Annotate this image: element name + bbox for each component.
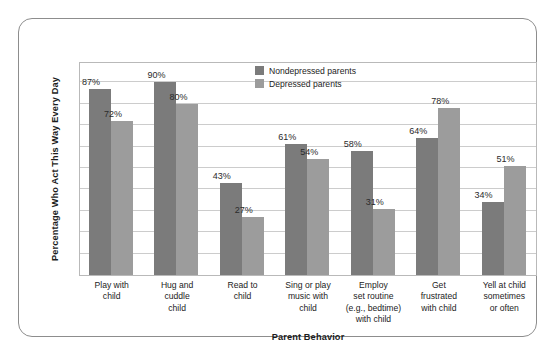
- x-tick-label: Hug andcuddlechild: [144, 280, 209, 314]
- bar: [220, 183, 242, 275]
- x-tick-label-line: Hug and: [144, 280, 209, 291]
- x-tick-label: Play withchild: [79, 280, 144, 303]
- bar-value-label: 31%: [355, 197, 395, 207]
- x-tick-label-line: Play with: [79, 280, 144, 291]
- x-tick-label-line: Yell at child: [472, 280, 537, 291]
- bar: [504, 166, 526, 275]
- legend-swatch-icon: [255, 79, 264, 88]
- legend-item: Nondepressed parents: [255, 65, 356, 76]
- bar-value-label: 87%: [71, 77, 111, 87]
- bar-value-label: 90%: [136, 70, 176, 80]
- x-tick-label-line: Employ: [341, 280, 406, 291]
- x-tick-label-line: music with: [275, 291, 340, 302]
- plot-area: 87%72%90%80%43%27%61%54%58%31%64%78%34%5…: [79, 62, 537, 276]
- bar: [373, 209, 395, 275]
- x-tick-label-line: child: [275, 303, 340, 314]
- legend-label: Nondepressed parents: [269, 66, 356, 76]
- bar-value-label: 80%: [158, 92, 198, 102]
- bar-value-label: 72%: [93, 109, 133, 119]
- bar-group: 87%72%: [80, 63, 145, 275]
- x-tick-label: Sing or playmusic withchild: [275, 280, 340, 314]
- bar: [307, 159, 329, 275]
- bar: [242, 217, 264, 275]
- bar: [111, 121, 133, 275]
- legend-label: Depressed parents: [269, 79, 342, 89]
- x-tick-label: Yell at childsometimesor often: [472, 280, 537, 314]
- x-tick-label: Getfrustratedwith child: [406, 280, 471, 314]
- bar-group: 61%54%: [276, 63, 341, 275]
- bar-value-label: 27%: [224, 205, 264, 215]
- bar-group: 90%80%: [145, 63, 210, 275]
- x-tick-label-line: Read to: [210, 280, 275, 291]
- x-tick-label: Employset routine(e.g., bedtime)with chi…: [341, 280, 406, 326]
- bar: [285, 144, 307, 275]
- x-tick-label-line: Get: [406, 280, 471, 291]
- bar-group: 34%51%: [473, 63, 538, 275]
- bar-value-label: 51%: [486, 154, 526, 164]
- x-tick-label-line: or often: [472, 303, 537, 314]
- bar-value-label: 58%: [333, 139, 373, 149]
- bar-value-label: 54%: [289, 147, 329, 157]
- bars-layer: 87%72%90%80%43%27%61%54%58%31%64%78%34%5…: [80, 63, 536, 275]
- x-tick-label-line: set routine: [341, 291, 406, 302]
- bar-value-label: 43%: [202, 171, 242, 181]
- bar-value-label: 61%: [267, 132, 307, 142]
- x-tick-label-line: cuddle: [144, 291, 209, 302]
- bar: [351, 151, 373, 275]
- bar: [154, 82, 176, 275]
- bar-group: 43%27%: [211, 63, 276, 275]
- x-axis-tick-labels: Play withchildHug andcuddlechildRead toc…: [79, 280, 537, 332]
- bar: [482, 202, 504, 275]
- x-axis-title: Parent Behavior: [79, 332, 537, 342]
- bar: [438, 108, 460, 275]
- chart-legend: Nondepressed parentsDepressed parents: [255, 65, 356, 89]
- x-tick-label-line: child: [79, 291, 144, 302]
- legend-swatch-icon: [255, 66, 264, 75]
- x-tick-label-line: child: [144, 303, 209, 314]
- bar-group: 58%31%: [342, 63, 407, 275]
- bar-group: 64%78%: [407, 63, 472, 275]
- bar-value-label: 34%: [464, 190, 504, 200]
- x-tick-label: Read tochild: [210, 280, 275, 303]
- x-tick-label-line: with child: [406, 303, 471, 314]
- bar-value-label: 78%: [420, 96, 460, 106]
- bar: [176, 104, 198, 275]
- bar-value-label: 64%: [398, 126, 438, 136]
- x-tick-label-line: with child: [341, 314, 406, 325]
- x-tick-label-line: (e.g., bedtime): [341, 303, 406, 314]
- x-tick-label-line: child: [210, 291, 275, 302]
- x-tick-label-line: Sing or play: [275, 280, 340, 291]
- y-axis-title: Percentage Who Act This Way Every Day: [45, 62, 65, 276]
- legend-item: Depressed parents: [255, 78, 356, 89]
- x-tick-label-line: sometimes: [472, 291, 537, 302]
- figure-frame: Percentage Who Act This Way Every Day 87…: [18, 18, 537, 337]
- bar: [416, 138, 438, 275]
- x-tick-label-line: frustrated: [406, 291, 471, 302]
